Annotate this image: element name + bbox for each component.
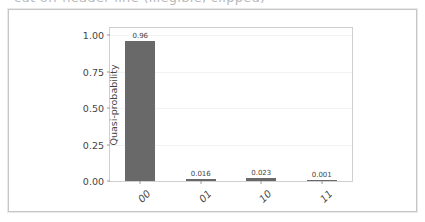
cropped-header-text-label: cut off header line (illegible, clipped) [14, 0, 265, 4]
y-axis-tick-label: 0.50 [83, 103, 110, 114]
x-axis-tick-label: 11 [318, 188, 335, 205]
figure-card: Quasi-probability 0.000.250.500.751.00 0… [8, 9, 417, 212]
y-axis-tick-mark [107, 181, 110, 182]
bar [125, 41, 155, 181]
x-axis-tick-mark [140, 181, 141, 184]
x-axis-tick-mark [200, 181, 201, 184]
bar-value-label: 0.023 [251, 169, 271, 177]
bar-value-label: 0.001 [312, 171, 332, 179]
x-axis-tick-mark [321, 181, 322, 184]
y-axis-tick-label: 0.00 [83, 176, 110, 187]
x-axis-tick-label: 01 [197, 188, 214, 205]
y-axis-tick-label: 0.25 [83, 139, 110, 150]
y-axis-tick-mark [107, 71, 110, 72]
y-axis-tick-mark [107, 144, 110, 145]
y-axis-tick-label: 0.75 [83, 66, 110, 77]
y-axis-tick-label: 1.00 [83, 30, 110, 41]
bar-value-label: 0.96 [132, 32, 148, 40]
x-axis-tick-label: 00 [136, 188, 153, 205]
y-axis-tick-mark [107, 108, 110, 109]
x-axis-tick-mark [261, 181, 262, 184]
cropped-header-text: cut off header line (illegible, clipped) [0, 0, 425, 7]
x-axis-tick-label: 10 [257, 188, 274, 205]
plot-area: Quasi-probability 0.000.250.500.751.00 0… [109, 27, 353, 182]
y-axis-tick-mark [107, 35, 110, 36]
bar-value-label: 0.016 [191, 170, 211, 178]
